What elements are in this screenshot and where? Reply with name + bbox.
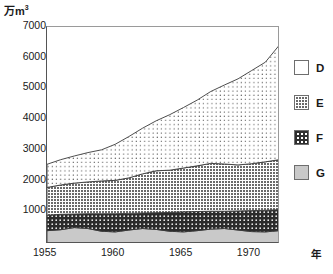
- y-axis-unit-exponent: 3: [25, 4, 29, 11]
- y-tick-label: 4000: [23, 112, 46, 122]
- y-axis-unit-text: 万m: [4, 5, 25, 17]
- stacked-area-svg: [47, 27, 279, 243]
- legend-label-D: D: [316, 61, 324, 75]
- y-tick-label: 5000: [23, 81, 46, 91]
- legend: D E F G: [294, 60, 333, 200]
- legend-swatch-G-icon: [294, 165, 309, 180]
- legend-item-E[interactable]: E: [294, 95, 333, 130]
- legend-swatch-D-icon: [294, 60, 309, 75]
- legend-item-F[interactable]: F: [294, 130, 333, 165]
- x-tick-label: 1960: [101, 246, 124, 258]
- x-axis-unit-label: 年: [311, 246, 321, 261]
- legend-label-G: G: [316, 166, 325, 180]
- y-tick-label: 6000: [23, 51, 46, 61]
- x-tick-label: 1965: [169, 246, 192, 258]
- chart-figure: 万m3 7000600050004000300020001000 1955196…: [0, 0, 333, 274]
- y-tick-label: 3000: [23, 143, 46, 153]
- legend-item-G[interactable]: G: [294, 165, 333, 200]
- y-axis-unit-label: 万m3: [4, 2, 29, 18]
- plot-area: [46, 26, 279, 243]
- y-tick-label: 1000: [23, 204, 46, 214]
- x-tick-label: 1970: [237, 246, 260, 258]
- legend-label-E: E: [316, 96, 324, 110]
- legend-swatch-E-icon: [294, 95, 309, 110]
- legend-swatch-F-icon: [294, 130, 309, 145]
- y-tick-label: 7000: [23, 20, 46, 30]
- x-tick-label: 1955: [33, 246, 56, 258]
- legend-item-D[interactable]: D: [294, 60, 333, 95]
- y-tick-label: 2000: [23, 174, 46, 184]
- legend-label-F: F: [316, 131, 323, 145]
